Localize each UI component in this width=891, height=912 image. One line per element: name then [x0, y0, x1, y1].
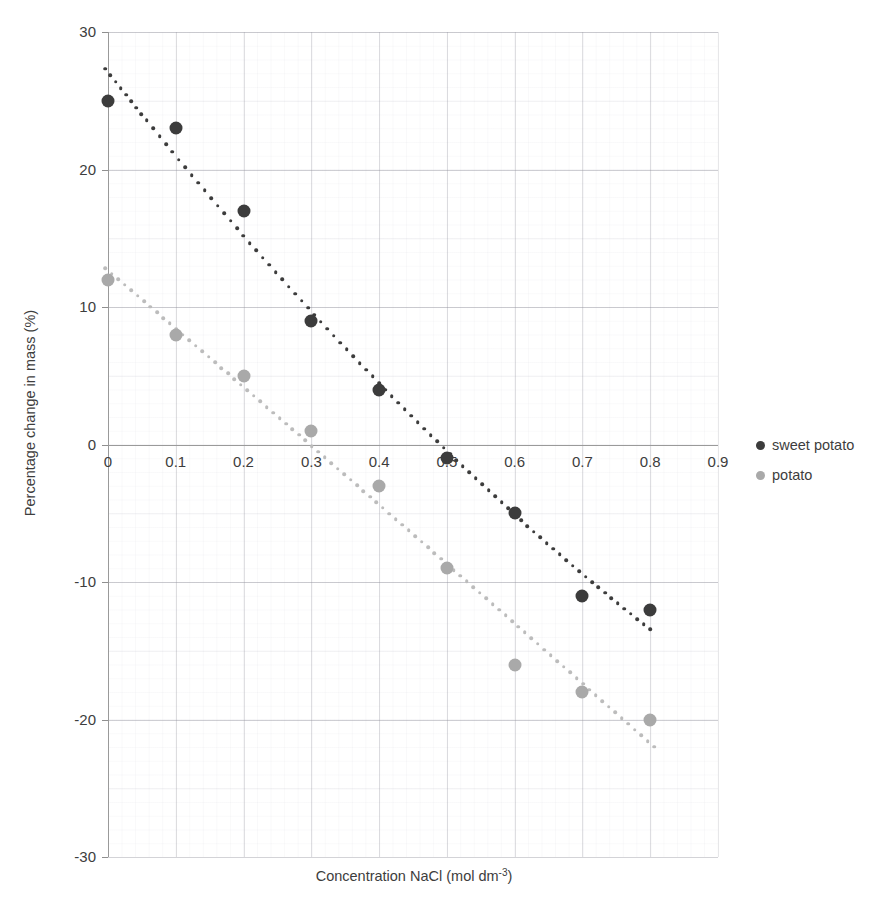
x-tick-label: 0.9 — [688, 453, 748, 470]
trendline-dot — [278, 416, 282, 420]
trendline-dot — [371, 375, 375, 379]
trendline-dot — [510, 619, 514, 623]
trendline-dot — [442, 446, 446, 450]
gridline-horizontal — [108, 582, 718, 583]
trendline-dot — [558, 553, 562, 557]
chart-legend: sweet potatopotato — [756, 430, 886, 490]
trendline-dot — [171, 150, 175, 154]
data-point — [576, 686, 589, 699]
data-point — [305, 314, 318, 327]
trendline-dot — [590, 580, 594, 584]
trendline-dot — [239, 383, 243, 387]
trendline-dot — [123, 283, 127, 287]
trendline-dot — [362, 489, 366, 493]
legend-item-label: sweet potato — [772, 437, 854, 453]
trendline-dot — [435, 439, 439, 443]
trendline-dot — [500, 501, 504, 505]
trendline-dot — [151, 126, 155, 130]
data-point — [373, 479, 386, 492]
trendline-dot — [471, 585, 475, 589]
trendline-dot — [381, 506, 385, 510]
trendline-dot — [209, 196, 213, 200]
trendline-dot — [429, 433, 433, 437]
trendline-dot — [616, 602, 620, 606]
chart-figure: Percentage change in mass (%) 3020100-10… — [0, 0, 891, 912]
trendline-dot — [164, 142, 168, 146]
data-point — [440, 562, 453, 575]
y-tick-mark — [102, 857, 108, 858]
legend-item: potato — [756, 460, 886, 490]
gridline-horizontal — [108, 170, 718, 171]
x-axis-title-base: Concentration NaCl (mol dm — [316, 868, 499, 884]
trendline-dot — [297, 433, 301, 437]
trendline-dot — [497, 608, 501, 612]
trendline-dot — [267, 263, 271, 267]
trendline-dot — [345, 348, 349, 352]
trendline-dot — [626, 722, 630, 726]
data-point — [508, 658, 521, 671]
trendline-dot — [478, 591, 482, 595]
trendline-dot — [235, 226, 239, 230]
trendline-dot — [629, 612, 633, 616]
y-tick-label: 30 — [26, 23, 96, 40]
trendline-dot — [242, 234, 246, 238]
trendline-dot — [652, 745, 656, 749]
trendline-dot — [304, 439, 308, 443]
trendline-dot — [562, 665, 566, 669]
trendline-dot — [549, 653, 553, 657]
trendline-dot — [426, 546, 430, 550]
trendline-dot — [149, 305, 153, 309]
trendline-dot — [140, 112, 144, 116]
trendline-dot — [358, 361, 362, 365]
trendline-dot — [306, 306, 310, 310]
x-axis-title-exponent: -3 — [499, 867, 508, 878]
trendline-dot — [597, 586, 601, 590]
y-tick-label: 0 — [26, 436, 96, 453]
trendline-dot — [364, 368, 368, 372]
trendline-dot — [129, 99, 133, 103]
trendline-dot — [420, 540, 424, 544]
trendline-dot — [200, 349, 204, 353]
gridline-horizontal — [108, 857, 718, 858]
trendline-dot — [523, 631, 527, 635]
trendline-dot — [646, 739, 650, 743]
x-tick-label: 0.5 — [417, 453, 477, 470]
trendline-dot — [129, 288, 133, 292]
trendline-dot — [291, 427, 295, 431]
trendline-dot — [203, 189, 207, 193]
trendline-dot — [639, 734, 643, 738]
trendline-dot — [480, 483, 484, 487]
legend-marker-icon — [756, 471, 765, 480]
trendline-dot — [555, 659, 559, 663]
x-tick-label: 0.4 — [349, 453, 409, 470]
trendline-dot — [484, 597, 488, 601]
trendline-dot — [280, 278, 284, 282]
y-axis-title: Percentage change in mass (%) — [22, 243, 38, 583]
trendline-dot — [326, 327, 330, 331]
trendline-dot — [375, 500, 379, 504]
trendline-dot — [491, 602, 495, 606]
trendline-dot — [390, 394, 394, 398]
y-tick-label: -30 — [26, 848, 96, 865]
data-point — [644, 603, 657, 616]
data-point — [102, 94, 115, 107]
trendline-dot — [134, 106, 138, 110]
trendline-dot — [207, 355, 211, 359]
trendline-dot — [610, 596, 614, 600]
trendline-dot — [255, 248, 259, 252]
trendline-dot — [474, 477, 478, 481]
trendline-dot — [226, 372, 230, 376]
legend-marker-icon — [756, 441, 765, 450]
trendline-dot — [594, 693, 598, 697]
trendline-dot — [530, 636, 534, 640]
x-axis-line — [108, 445, 718, 446]
trendline-dot — [433, 551, 437, 555]
trendline-dot — [246, 388, 250, 392]
trendline-dot — [190, 173, 194, 177]
gridline-vertical — [718, 32, 719, 857]
gridline-horizontal — [108, 720, 718, 721]
trendline-dot — [284, 422, 288, 426]
trendline-dot — [603, 591, 607, 595]
trendline-dot — [332, 334, 336, 338]
trendline-dot — [194, 344, 198, 348]
